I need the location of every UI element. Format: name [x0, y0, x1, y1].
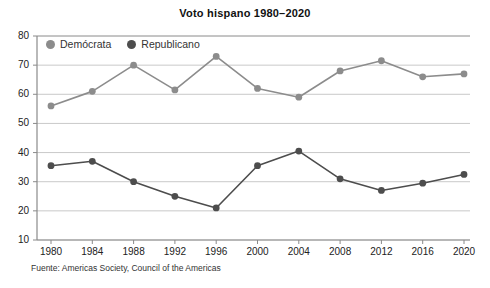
data-point [295, 94, 302, 101]
x-axis-tick-2020: 2020 [444, 246, 484, 257]
data-point [337, 68, 344, 75]
data-point [378, 187, 385, 194]
data-point [172, 87, 179, 94]
legend-item-democrata: Demócrata [46, 39, 111, 50]
x-axis-tick-2016: 2016 [403, 246, 443, 257]
y-axis-tick-70: 70 [7, 59, 29, 70]
data-point [254, 162, 261, 169]
data-point [48, 162, 55, 169]
legend-item-republicano: Republicano [127, 39, 199, 50]
series-lines [51, 56, 464, 208]
data-point [254, 85, 261, 92]
y-axis-tick-20: 20 [7, 205, 29, 216]
y-axis-tick-60: 60 [7, 88, 29, 99]
y-axis-tick-40: 40 [7, 147, 29, 158]
data-point [461, 171, 468, 178]
x-axis-tick-2004: 2004 [279, 246, 319, 257]
data-point [172, 193, 179, 200]
x-axis-tick-2000: 2000 [238, 246, 278, 257]
source-note: Fuente: Americas Society, Council of the… [31, 263, 221, 273]
legend-label-republicano: Republicano [141, 39, 199, 50]
data-point [89, 158, 96, 165]
x-tick-marks [51, 240, 464, 244]
chart-container: Voto hispano 1980–2020 Demócrata Republi… [0, 0, 490, 288]
legend-dot-republicano-icon [127, 40, 136, 49]
legend-dot-democrata-icon [46, 40, 55, 49]
data-points [48, 53, 468, 211]
y-axis-tick-50: 50 [7, 117, 29, 128]
x-axis-tick-2012: 2012 [361, 246, 401, 257]
chart-legend: Demócrata Republicano [46, 39, 200, 50]
series-line-1 [51, 151, 464, 208]
x-axis-tick-1992: 1992 [155, 246, 195, 257]
axes [33, 36, 470, 240]
y-axis-tick-10: 10 [7, 234, 29, 245]
data-point [378, 57, 385, 64]
data-point [419, 180, 426, 187]
data-point [295, 148, 302, 155]
data-point [130, 62, 137, 69]
x-axis-tick-1984: 1984 [72, 246, 112, 257]
data-point [130, 178, 137, 185]
x-axis-tick-2008: 2008 [320, 246, 360, 257]
y-axis-tick-30: 30 [7, 176, 29, 187]
data-point [48, 103, 55, 110]
data-point [419, 73, 426, 80]
x-axis-tick-1980: 1980 [31, 246, 71, 257]
data-point [461, 70, 468, 77]
y-axis-tick-80: 80 [7, 30, 29, 41]
x-axis-tick-1996: 1996 [196, 246, 236, 257]
data-point [213, 205, 220, 212]
series-line-0 [51, 56, 464, 106]
x-axis-tick-1988: 1988 [114, 246, 154, 257]
data-point [213, 53, 220, 60]
data-point [89, 88, 96, 95]
data-point [337, 175, 344, 182]
legend-label-democrata: Demócrata [60, 39, 111, 50]
gridlines [37, 36, 470, 240]
